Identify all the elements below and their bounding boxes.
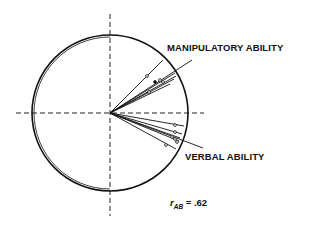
correlation-value: = .62: [186, 197, 207, 208]
verbal-vectors: [110, 113, 203, 149]
manipulatory-ability-label: MANIPULATORY ABILITY: [167, 42, 283, 53]
manipulatory-vectors: [110, 60, 192, 113]
verbal-ability-label: VERBAL ABILITY: [185, 151, 265, 162]
correlation-label: rAB = .62: [170, 197, 207, 210]
vector-diagram: [0, 0, 312, 229]
correlation-subscript: AB: [174, 203, 183, 210]
